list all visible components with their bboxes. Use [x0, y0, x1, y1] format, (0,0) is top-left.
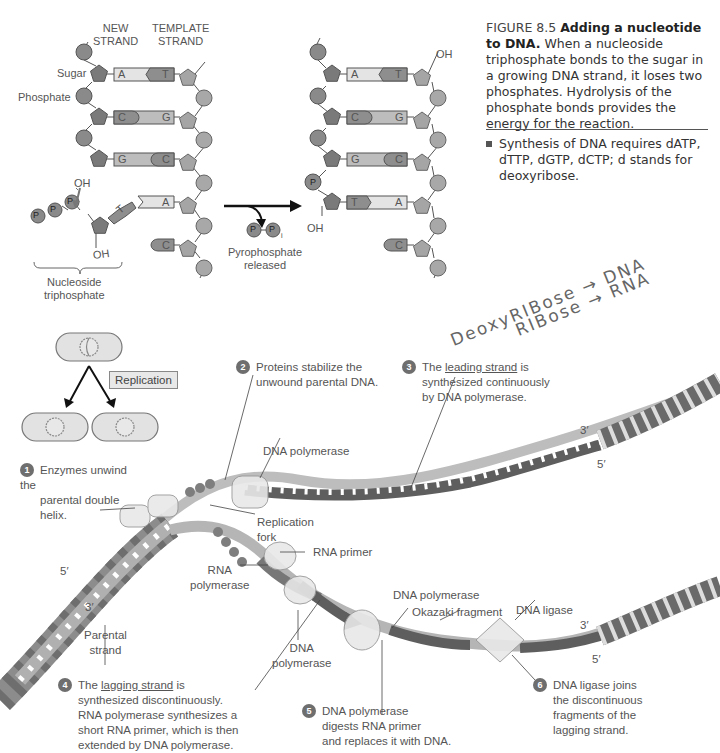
label-parental-strand: Parental strand: [84, 628, 127, 658]
template-strand-label-line1: TEMPLATE: [152, 22, 209, 35]
base-template-2: G: [162, 111, 171, 124]
base-new-2: C: [118, 111, 126, 124]
phosphate-p3: P: [67, 196, 73, 206]
label-replication-fork: Replication fork: [257, 515, 314, 545]
pyrophosphate-line2: released: [228, 259, 302, 272]
r-base-template-2: G: [395, 111, 404, 124]
figure-number: FIGURE 8.5: [486, 20, 556, 35]
nucleoside-label-line2: triphosphate: [44, 289, 105, 302]
step-6-line4: lagging strand.: [553, 724, 628, 736]
bullet-square-icon: [486, 141, 492, 147]
step-3-line2: synthesized continuously: [422, 376, 550, 388]
nucleoside-triphosphate-label: Nucleoside triphosphate: [44, 276, 105, 302]
step-2-number: 2: [236, 360, 250, 374]
base-new-3: G: [118, 153, 127, 166]
step-4: 4The lagging strand is synthesized disco…: [58, 678, 278, 753]
step-1-number: 1: [20, 463, 34, 477]
step-6-line2: the discontinuous: [553, 694, 643, 706]
base-template-4: A: [162, 196, 169, 209]
base-template-5: C: [162, 239, 170, 252]
step-5-line3: and replaces it with DNA.: [322, 735, 451, 747]
dna-polymerase-mid-line1: DNA: [272, 641, 331, 656]
step-2: 2Proteins stabilize the unwound parental…: [236, 360, 396, 390]
oh-label-left-top: OH: [74, 177, 91, 190]
r-base-new-4: T: [351, 196, 358, 209]
label-dna-polymerase-right: DNA polymerase: [393, 588, 479, 603]
pyrophosphate-label: Pyrophosphate released: [228, 246, 302, 272]
step-6-line3: fragments of the: [553, 709, 636, 721]
label-rna-polymerase: RNA polymerase: [190, 563, 249, 593]
step-2-line2: unwound parental DNA.: [256, 376, 378, 388]
step-6-number: 6: [533, 678, 547, 692]
step-1: 1Enzymes unwind the parental double heli…: [20, 463, 130, 523]
parental-strand-line1: Parental: [84, 628, 127, 643]
label-3prime-parental: 3′: [85, 600, 94, 615]
step-3-underlined: leading strand: [445, 361, 517, 373]
replication-fork-line2: fork: [257, 530, 314, 545]
step-4-line3: RNA polymerase synthesizes a: [78, 709, 237, 721]
label-rna-primer: RNA primer: [313, 545, 372, 560]
new-strand-label-line1: NEW: [93, 22, 138, 35]
base-template-1: T: [162, 68, 169, 81]
caption-divider: [486, 129, 708, 130]
label-okazaki-fragment: Okazaki fragment: [412, 605, 502, 620]
step-4-line4: short RNA primer, which is then: [78, 724, 238, 736]
step-3: 3The leading strand is synthesized conti…: [402, 360, 572, 405]
r-base-new-1: A: [351, 68, 358, 81]
step-4-line5: extended by DNA polymerase.: [78, 739, 233, 751]
replication-label-box: Replication: [109, 371, 178, 389]
r-base-template-5: C: [395, 239, 403, 252]
step-6: 6DNA ligase joins the discontinuous frag…: [533, 678, 673, 738]
step-1-line2: parental double: [40, 494, 119, 506]
step-4-underlined: lagging strand: [101, 679, 173, 691]
base-template-3: C: [162, 153, 170, 166]
step-3-number: 3: [402, 360, 416, 374]
step-4-line2: synthesized discontinuously.: [78, 694, 223, 706]
step-2-line1: Proteins stabilize the: [256, 361, 362, 373]
r-base-new-2: C: [351, 111, 359, 124]
rna-polymerase-line2: polymerase: [190, 578, 249, 593]
step-5: 5DNA polymerase digests RNA primer and r…: [302, 704, 472, 749]
parental-strand-line2: strand: [84, 643, 127, 658]
label-dna-polymerase-mid: DNA polymerase: [272, 641, 331, 671]
step-3-line3: by DNA polymerase.: [422, 391, 527, 403]
step-5-line2: digests RNA primer: [322, 720, 421, 732]
step-4-number: 4: [58, 678, 72, 692]
step-5-number: 5: [302, 704, 316, 718]
replication-fork-line1: Replication: [257, 515, 314, 530]
pyrophosphate-line1: Pyrophosphate: [228, 246, 302, 259]
step-1-line3: helix.: [40, 509, 67, 521]
step-4-post: is: [173, 679, 185, 691]
oh-label-right-top: OH: [436, 48, 453, 61]
label-5prime-lagging: 5′: [592, 652, 601, 667]
step-4-pre: The: [78, 679, 101, 691]
phosphate-p2: P: [50, 204, 56, 214]
step-6-line1: DNA ligase joins: [553, 679, 637, 691]
step-3-post: is: [517, 361, 529, 373]
r-base-template-4: A: [395, 196, 402, 209]
r-base-template-3: C: [395, 153, 403, 166]
sugar-label: Sugar: [57, 67, 86, 80]
template-strand-label-line2: STRAND: [152, 35, 209, 48]
step-3-pre: The: [422, 361, 445, 373]
new-strand-label-line2: STRAND: [93, 35, 138, 48]
right-p: P: [310, 177, 316, 187]
phosphate-p1: P: [33, 210, 39, 220]
step-5-line1: DNA polymerase: [322, 705, 408, 717]
dna-polymerase-mid-line2: polymerase: [272, 656, 331, 671]
label-3prime-leading: 3′: [580, 423, 589, 438]
label-5prime-leading: 5′: [597, 457, 606, 472]
oh-label-left-bottom: OH: [92, 247, 110, 262]
label-3prime-lagging: 3′: [580, 618, 589, 633]
step-1-line1: Enzymes unwind the: [20, 464, 127, 491]
pyro-subscript: i: [281, 232, 283, 239]
label-dna-ligase: DNA ligase: [516, 603, 573, 618]
label-dna-polymerase-top: DNA polymerase: [263, 444, 349, 459]
pyro-p1: P: [250, 224, 256, 234]
new-strand-label: NEW STRAND: [93, 22, 138, 48]
pyro-p2: P: [269, 224, 275, 234]
r-base-new-3: G: [351, 153, 360, 166]
template-strand-label: TEMPLATE STRAND: [152, 22, 209, 48]
caption-bullet: Synthesis of DNA requires dATP, dTTP, dG…: [486, 136, 708, 184]
label-5prime-parental: 5′: [60, 564, 69, 579]
